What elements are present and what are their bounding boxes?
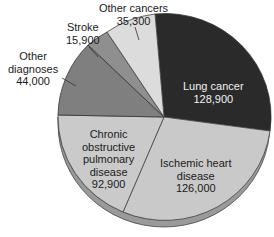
label-other-diagnoses-line2: diagnoses (8, 63, 58, 76)
label-stroke: Stroke 15,900 (66, 21, 100, 46)
label-ihd-value: 126,000 (160, 182, 232, 195)
label-stroke-name: Stroke (66, 21, 100, 34)
label-copd-line3: pulmonary (82, 153, 135, 166)
pie-chart (0, 0, 274, 237)
label-copd-line4: disease (82, 166, 135, 179)
label-lung-cancer-value: 128,900 (183, 93, 244, 106)
label-copd-line2: obstructive (82, 141, 135, 154)
label-lung-cancer: Lung cancer 128,900 (183, 80, 244, 105)
label-other-diagnoses-value: 44,000 (8, 75, 58, 88)
label-lung-cancer-name: Lung cancer (183, 80, 244, 93)
label-other-diagnoses-line1: Other (8, 50, 58, 63)
label-stroke-value: 15,900 (66, 34, 100, 47)
label-other-cancers: Other cancers 35,300 (99, 2, 168, 27)
label-ischemic-heart-disease: Ischemic heart disease 126,000 (160, 157, 232, 195)
label-copd: Chronic obstructive pulmonary disease 92… (82, 128, 135, 191)
label-other-diagnoses: Other diagnoses 44,000 (8, 50, 58, 88)
label-copd-line1: Chronic (82, 128, 135, 141)
slice-lung-cancer (155, 14, 271, 131)
label-other-cancers-value: 35,300 (99, 15, 168, 28)
label-other-cancers-name: Other cancers (99, 2, 168, 15)
label-ihd-line1: Ischemic heart (160, 157, 232, 170)
label-copd-value: 92,900 (82, 178, 135, 191)
label-ihd-line2: disease (160, 170, 232, 183)
